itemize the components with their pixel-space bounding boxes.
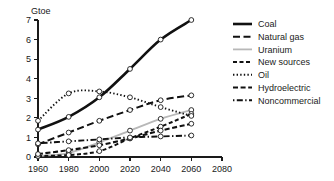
chart-canvas: Gtoe 01234567 19601980200020202040206020…	[0, 0, 334, 181]
series-line-uranium	[38, 110, 191, 156]
data-point-marker	[128, 135, 133, 140]
y-tick-label: 1	[26, 133, 31, 143]
data-point-marker	[158, 134, 163, 139]
x-tick-label: 2000	[89, 164, 109, 174]
legend-label-hydroelectric: Hydroelectric	[258, 83, 311, 93]
data-point-marker	[36, 118, 41, 123]
data-point-marker	[158, 105, 163, 110]
series-line-coal	[38, 20, 191, 130]
data-point-marker	[128, 95, 133, 100]
y-axis-label: Gtoe	[31, 6, 51, 16]
legend-label-new-sources: New sources	[258, 57, 311, 67]
data-point-marker	[189, 18, 194, 23]
data-point-marker	[36, 152, 41, 157]
data-point-marker	[97, 89, 102, 94]
data-point-marker	[189, 93, 194, 98]
data-point-marker	[158, 98, 163, 103]
data-point-marker	[158, 128, 163, 133]
data-point-marker	[66, 114, 71, 119]
data-point-marker	[189, 133, 194, 138]
y-tick-label: 2	[26, 113, 31, 123]
y-tick-label: 7	[26, 15, 31, 25]
data-point-marker	[128, 128, 133, 133]
x-tick-label: 2040	[151, 164, 171, 174]
data-point-marker	[66, 130, 71, 135]
legend-label-oil: Oil	[258, 70, 269, 80]
x-tick-label: 1960	[28, 164, 48, 174]
y-axis-label-group: Gtoe	[31, 6, 51, 16]
y-tick-label: 4	[26, 74, 31, 84]
data-point-marker	[97, 143, 102, 148]
x-tick-label: 2080	[212, 164, 232, 174]
x-axis-tick-group: 1960198020002020204020602080	[28, 157, 232, 174]
data-point-marker	[97, 118, 102, 123]
x-tick-label: 1980	[59, 164, 79, 174]
data-point-marker	[158, 116, 163, 121]
data-point-marker	[97, 149, 102, 154]
y-tick-label: 3	[26, 94, 31, 104]
data-point-marker	[128, 67, 133, 72]
legend-label-noncommercial: Noncommercial	[258, 96, 321, 106]
data-point-marker	[189, 121, 194, 126]
x-tick-label: 2060	[181, 164, 201, 174]
energy-sources-line-chart: Gtoe 01234567 19601980200020202040206020…	[0, 0, 334, 181]
data-point-marker	[66, 153, 71, 158]
data-point-marker	[97, 137, 102, 142]
y-tick-label: 0	[26, 152, 31, 162]
y-tick-label: 5	[26, 54, 31, 64]
y-axis-tick-group: 01234567	[26, 15, 38, 162]
data-point-marker	[128, 108, 133, 113]
data-point-marker	[66, 91, 71, 96]
data-point-marker	[158, 37, 163, 42]
x-tick-label: 2020	[120, 164, 140, 174]
data-point-marker	[97, 95, 102, 100]
y-tick-label: 6	[26, 35, 31, 45]
chart-legend: CoalNatural gasUraniumNew sourcesOilHydr…	[233, 19, 321, 105]
data-point-marker	[36, 127, 41, 132]
series-layer	[38, 20, 191, 156]
legend-label-uranium: Uranium	[258, 45, 292, 55]
data-point-marker	[189, 114, 194, 119]
series-line-hydroelectric	[38, 124, 191, 154]
legend-label-coal: Coal	[258, 19, 277, 29]
data-point-marker	[66, 139, 71, 144]
data-point-marker	[66, 148, 71, 153]
legend-label-natural-gas: Natural gas	[258, 32, 305, 42]
data-point-marker	[36, 141, 41, 146]
